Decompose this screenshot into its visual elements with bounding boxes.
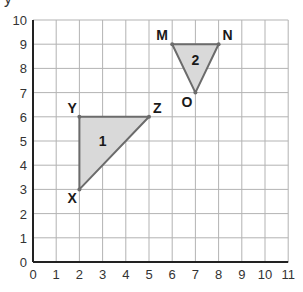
vertex-label-y: Y bbox=[67, 100, 77, 116]
vertex-point-n bbox=[217, 42, 221, 46]
vertex-label-n: N bbox=[223, 27, 233, 43]
coordinate-plane: y 01234567891011012345678910 1XYZ2MNO bbox=[0, 0, 303, 292]
triangle-1-label: 1 bbox=[99, 133, 107, 149]
y-tick-label: 3 bbox=[20, 182, 27, 197]
x-tick-label: 7 bbox=[192, 267, 199, 282]
x-tick-label: 5 bbox=[145, 267, 152, 282]
vertex-label-m: M bbox=[156, 27, 168, 43]
vertex-label-z: Z bbox=[153, 100, 162, 116]
y-tick-label: 6 bbox=[20, 110, 27, 125]
vertex-point-x bbox=[77, 187, 81, 191]
y-tick-label: 7 bbox=[20, 86, 27, 101]
x-tick-label: 8 bbox=[215, 267, 222, 282]
y-tick-label: 10 bbox=[13, 13, 27, 28]
y-tick-label: 5 bbox=[20, 134, 27, 149]
x-tick-label: 2 bbox=[76, 267, 83, 282]
vertex-point-z bbox=[147, 115, 151, 119]
vertex-point-m bbox=[170, 42, 174, 46]
y-tick-label: 4 bbox=[20, 158, 27, 173]
y-tick-label: 2 bbox=[20, 207, 27, 222]
y-tick-label: 0 bbox=[20, 255, 27, 270]
vertex-label-x: X bbox=[67, 190, 77, 206]
tick-labels: 01234567891011012345678910 bbox=[13, 13, 295, 282]
vertex-label-o: O bbox=[181, 94, 192, 110]
x-tick-label: 9 bbox=[238, 267, 245, 282]
x-tick-label: 10 bbox=[258, 267, 272, 282]
y-tick-label: 9 bbox=[20, 37, 27, 52]
triangle-1 bbox=[79, 117, 149, 190]
x-tick-label: 4 bbox=[122, 267, 129, 282]
x-tick-label: 3 bbox=[99, 267, 106, 282]
vertex-point-o bbox=[193, 91, 197, 95]
x-tick-label: 0 bbox=[29, 267, 36, 282]
x-tick-label: 11 bbox=[281, 267, 295, 282]
vertex-point-y bbox=[77, 115, 81, 119]
x-tick-label: 6 bbox=[169, 267, 176, 282]
grid-lines bbox=[33, 20, 288, 262]
y-axis-label: y bbox=[4, 0, 12, 7]
y-tick-label: 8 bbox=[20, 61, 27, 76]
triangle-2-label: 2 bbox=[192, 52, 200, 68]
y-tick-label: 1 bbox=[20, 231, 27, 246]
x-tick-label: 1 bbox=[53, 267, 60, 282]
